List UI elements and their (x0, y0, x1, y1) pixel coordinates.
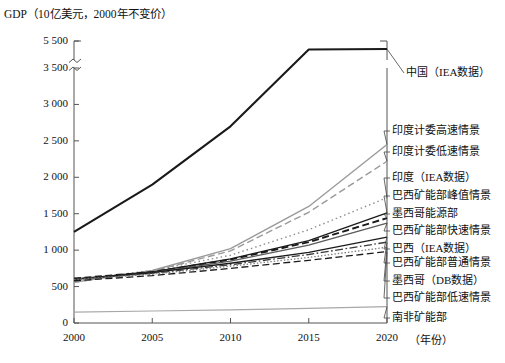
y-tick-label: 5 500 (10, 34, 68, 46)
y-tick-label: 0 (10, 316, 68, 328)
x-tick-label: 2010 (201, 331, 261, 343)
x-tick-label: 2000 (44, 331, 104, 343)
x-tick-label: 2020 (357, 331, 417, 343)
series-label: 墨西哥能源部 (392, 208, 458, 219)
y-tick-label: 500 (10, 280, 68, 292)
series-label: 巴西矿能部快速情景 (392, 225, 491, 236)
x-tick-label: 2015 (279, 331, 339, 343)
y-tick-label: 2 000 (10, 170, 68, 182)
series-label: 巴西矿能部峰值情景 (392, 190, 491, 201)
series-label: 南非矿能部 (392, 312, 447, 323)
series-lines (74, 49, 387, 312)
gdp-line-chart: GDP（10亿美元，2000年不变价） 05001 0001 5002 0002… (0, 0, 505, 363)
axis-break-mark (69, 59, 81, 71)
series-label: 中国（IEA数据） (406, 67, 490, 78)
series-line (74, 198, 387, 280)
y-tick-label: 2 500 (10, 134, 68, 146)
series-label: 巴西矿能部普通情景 (392, 257, 491, 268)
series-label: 印度计委高速情景 (392, 125, 480, 136)
series-label: 墨西哥（DB数据） (392, 275, 484, 286)
series-label: 印度计委低速情景 (392, 146, 480, 157)
y-tick-label: 3 500 (10, 61, 68, 73)
series-label: 巴西（IEA数据） (392, 243, 476, 254)
y-tick-label: 1 000 (10, 243, 68, 255)
x-axis-unit-label: （年份） (409, 331, 453, 347)
series-label: 印度（IEA数据） (392, 172, 476, 183)
series-line (74, 49, 387, 232)
series-line (74, 237, 387, 279)
series-line (74, 161, 387, 282)
series-line (74, 307, 387, 312)
series-label: 巴西矿能部低速情景 (392, 292, 491, 303)
y-tick-label: 1 500 (10, 207, 68, 219)
y-tick-label: 3 000 (10, 97, 68, 109)
x-tick-label: 2005 (122, 331, 182, 343)
